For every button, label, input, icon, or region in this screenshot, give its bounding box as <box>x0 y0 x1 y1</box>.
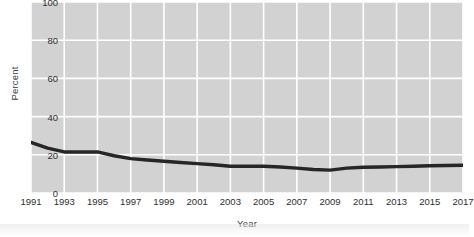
y-tick-label: 60 <box>31 73 58 84</box>
plot-area <box>31 2 463 193</box>
y-tick-label: 20 <box>31 149 58 160</box>
x-tick-label: 2015 <box>419 196 440 207</box>
x-tick-label: 2007 <box>286 196 307 207</box>
x-tick-label: 2005 <box>253 196 274 207</box>
x-tick-label: 2003 <box>220 196 241 207</box>
x-tick-label: 2013 <box>386 196 407 207</box>
y-tick-label: 100 <box>31 0 58 8</box>
x-tick-label: 1995 <box>87 196 108 207</box>
y-tick-label: 80 <box>31 35 58 46</box>
data-series-line <box>31 2 463 193</box>
x-tick-label: 2017 <box>452 196 473 207</box>
x-tick-label: 1997 <box>120 196 141 207</box>
x-tick-label: 2009 <box>319 196 340 207</box>
y-axis-title: Percent <box>9 54 20 114</box>
x-tick-label: 2001 <box>187 196 208 207</box>
scan-artifact <box>0 224 469 237</box>
x-tick-label: 1991 <box>20 196 41 207</box>
y-tick-label: 40 <box>31 111 58 122</box>
x-tick-label: 1999 <box>153 196 174 207</box>
x-tick-label: 2011 <box>353 196 373 207</box>
x-tick-label: 1993 <box>54 196 75 207</box>
